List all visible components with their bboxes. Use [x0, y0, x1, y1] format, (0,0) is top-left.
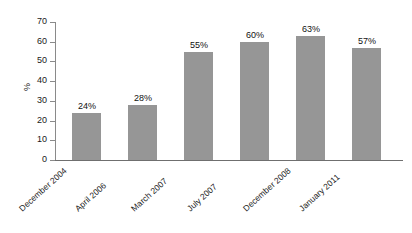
bar[interactable] [72, 113, 101, 160]
x-axis-label: December 2008 [241, 169, 289, 214]
y-tick-label: 20 [23, 115, 47, 125]
y-tick-label: 30 [23, 95, 47, 105]
y-tick-label: 60 [23, 36, 47, 46]
bar[interactable] [352, 48, 381, 160]
x-axis-label: April 2006 [73, 169, 121, 214]
y-tick-label: 10 [23, 134, 47, 144]
bar[interactable] [240, 42, 269, 160]
bar-slot: 60% [227, 22, 283, 160]
bar[interactable] [184, 52, 213, 160]
bar-series: 24%28%55%60%63%57% [55, 18, 403, 161]
bar-value-label: 60% [227, 30, 283, 40]
bar-value-label: 24% [59, 101, 115, 111]
bar-slot: 28% [115, 22, 171, 160]
bar-value-label: 55% [171, 40, 227, 50]
bar-value-label: 28% [115, 93, 171, 103]
bar-slot: 24% [59, 22, 115, 160]
x-axis-label: March 2007 [129, 169, 177, 214]
x-axis-label: December 2004 [17, 169, 65, 214]
y-tick-label: 70 [23, 16, 47, 26]
bar-slot: 63% [283, 22, 339, 160]
bar-slot: 57% [339, 22, 395, 160]
bar[interactable] [296, 36, 325, 160]
x-axis-labels: December 2004April 2006March 2007July 20… [55, 162, 403, 232]
y-tick-label: 0 [23, 154, 47, 164]
y-tick-label: 50 [23, 55, 47, 65]
plot-area: 706050403020100 24%28%55%60%63%57% [55, 18, 403, 164]
bar-slot: 55% [171, 22, 227, 160]
x-axis-label: July 2007 [185, 169, 233, 214]
bar-value-label: 57% [339, 36, 395, 46]
bar[interactable] [128, 105, 157, 160]
bar-chart: % 706050403020100 24%28%55%60%63%57% Dec… [0, 0, 412, 233]
x-axis-label: January 2011 [297, 169, 345, 214]
bar-value-label: 63% [283, 24, 339, 34]
y-tick-label: 40 [23, 75, 47, 85]
